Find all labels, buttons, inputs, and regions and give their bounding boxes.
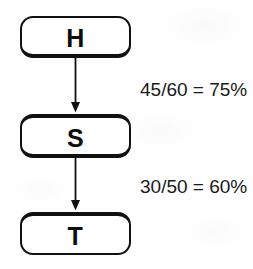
- node-t-label: T: [22, 224, 129, 249]
- edge-s-to-t: [70, 158, 81, 211]
- node-h[interactable]: H: [20, 16, 131, 58]
- node-s-label: S: [22, 126, 129, 151]
- node-h-label: H: [22, 26, 129, 51]
- diagram-canvas: H S T 45/60 = 75% 30/50 = 60%: [0, 0, 253, 269]
- node-s[interactable]: S: [20, 114, 131, 158]
- edge-label-s-to-t: 30/50 = 60%: [140, 177, 247, 196]
- edge-label-h-to-s: 45/60 = 75%: [140, 80, 247, 99]
- edge-h-to-s: [70, 58, 81, 113]
- node-t[interactable]: T: [20, 212, 131, 255]
